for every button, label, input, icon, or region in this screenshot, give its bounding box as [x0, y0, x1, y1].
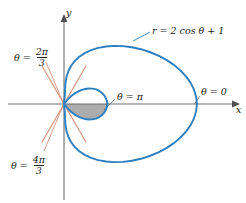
fraction-denominator: 3: [34, 165, 44, 176]
equation-label: r = 2 cos θ + 1: [152, 26, 224, 36]
theta-zero-label: θ = 0: [201, 87, 227, 97]
theta-pi-label: θ = π: [117, 92, 143, 102]
theta-4pi-over-3-label: θ = 4π 3: [11, 155, 47, 176]
x-axis-label: x: [236, 105, 241, 115]
fraction-4pi-over-3: 4π 3: [31, 155, 47, 176]
fraction-2pi-over-3: 2π 3: [34, 47, 50, 68]
limacon-inner-loop-upper: [64, 89, 107, 105]
theta-2pi-over-3-lead: θ =: [14, 52, 31, 63]
fraction-denominator: 3: [37, 57, 47, 68]
fraction-numerator: 4π: [31, 155, 47, 165]
leader-line-equation: [133, 32, 150, 41]
polar-curve-figure: r = 2 cos θ + 1 θ = 0 θ = π x y θ = 2π 3…: [0, 0, 246, 203]
theta-2pi-over-3-label: θ = 2π 3: [14, 47, 50, 68]
fraction-numerator: 2π: [34, 47, 50, 57]
leader-line-2pi-over-3: [46, 62, 64, 104]
y-axis-label: y: [66, 8, 71, 18]
theta-4pi-over-3-lead: θ =: [11, 160, 28, 171]
leader-line-4pi-over-3: [44, 105, 64, 152]
